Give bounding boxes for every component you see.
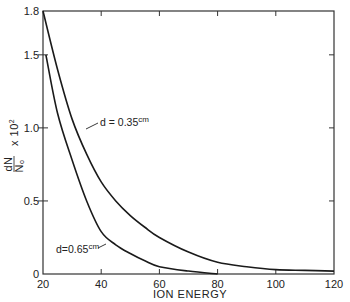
x-axis-title: ION ENERGY bbox=[153, 288, 227, 300]
annotation-leader-d035 bbox=[86, 123, 98, 129]
y-title-denominator: No bbox=[13, 160, 25, 173]
y-axis-title: dN No x 102 bbox=[2, 119, 25, 173]
plot-frame bbox=[43, 11, 334, 274]
chart-svg: 2040608010012000.51.01.51.8 d = 0.35cm d… bbox=[0, 0, 350, 302]
x-tick-label: 100 bbox=[267, 278, 285, 290]
y-tick-label: 1.8 bbox=[24, 5, 39, 17]
x-tick-label: 40 bbox=[95, 278, 107, 290]
y-tick-label: 1.5 bbox=[24, 49, 39, 61]
x-tick-label: 120 bbox=[325, 278, 343, 290]
curve-d-0-35cm bbox=[43, 11, 334, 271]
annotation-d035: d = 0.35cm bbox=[100, 115, 149, 128]
data-curves bbox=[43, 11, 334, 274]
annotation-d065: d=0.65cm bbox=[56, 242, 99, 255]
annotation-leader-d065 bbox=[98, 244, 106, 248]
plot-border bbox=[43, 11, 334, 274]
y-tick-label: 0 bbox=[33, 268, 39, 280]
y-title-multiplier: x 102 bbox=[8, 119, 20, 146]
curve-d-0-65cm bbox=[46, 55, 218, 274]
y-tick-label: 1.0 bbox=[24, 122, 39, 134]
axis-ticks bbox=[38, 11, 334, 274]
y-tick-label: 0.5 bbox=[24, 195, 39, 207]
